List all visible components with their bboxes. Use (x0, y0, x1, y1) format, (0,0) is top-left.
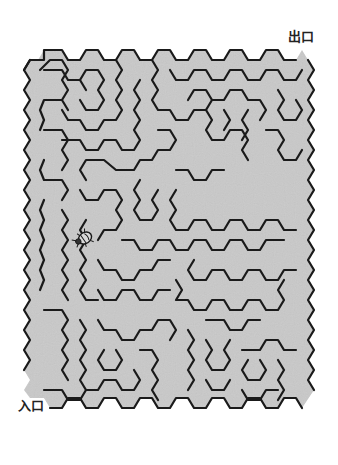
hex-maze[interactable] (0, 0, 338, 465)
maze-floor (24, 50, 314, 408)
